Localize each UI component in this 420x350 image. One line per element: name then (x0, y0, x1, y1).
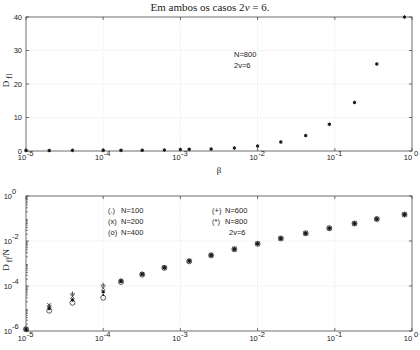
top-ytick-label: 10 (14, 113, 22, 122)
top-xtick-label-exp: -2 (258, 149, 265, 158)
bottom-ytick-label-base: 10 (4, 327, 12, 336)
bottom-ytick-label: 100 (4, 187, 17, 200)
top-xtick-label-base: 10 (249, 153, 257, 162)
bottom-panel: 10-510-410-310-210-110010010-210-410-6Df… (1, 187, 418, 343)
top-annotation: N=800 (234, 50, 256, 59)
bottom-xtick-label-base: 10 (404, 334, 412, 343)
bottom-ytick-label-exp: 0 (12, 187, 16, 196)
legend-symbol: (.) (108, 206, 116, 215)
bottom-ytick-label-base: 10 (4, 282, 12, 291)
top-xaxis-label: β (217, 165, 222, 175)
legend-entry: (o)N=400 (108, 228, 143, 237)
legend-entry: (*)N=800 (212, 217, 247, 226)
top-series-N=800 (24, 15, 406, 152)
bottom-xtick-label-exp: -4 (104, 330, 111, 339)
top-xtick-label-base: 10 (172, 153, 180, 162)
legend-label: 2v=6 (229, 228, 245, 237)
legend-label: N=400 (121, 228, 143, 237)
bottom-ytick-label: 10-2 (4, 232, 19, 245)
bottom-xtick-label: 10-3 (172, 330, 188, 343)
legend-label: N=600 (225, 206, 247, 215)
bottom-ytick-label-exp: -2 (12, 232, 19, 241)
bottom-series-N=800 (24, 213, 406, 331)
top-xtick-label-exp: -4 (104, 149, 111, 158)
figure-container: Em ambos os casos 2v = 6. 10-510-410-310… (0, 0, 420, 350)
top-xtick-label-exp: -5 (27, 149, 34, 158)
legend-entry: 2v=6 (229, 228, 245, 237)
bottom-xtick-label-base: 10 (327, 334, 335, 343)
bottom-ytick-label: 10-4 (4, 277, 19, 290)
bottom-xtick-label-exp: -2 (258, 330, 265, 339)
figure-title-prefix: Em ambos os casos 2 (151, 1, 245, 13)
legend-symbol: (o) (108, 228, 118, 237)
top-ytick-label: 20 (14, 80, 22, 89)
bottom-xtick-label-base: 10 (249, 334, 257, 343)
bottom-series-N=600 (24, 212, 407, 331)
bottom-ytick-label-base: 10 (4, 237, 12, 246)
legend-label: N=200 (121, 217, 143, 226)
bottom-ytick-label: 10-6 (4, 322, 19, 335)
legend-symbol: (*) (212, 217, 220, 226)
bottom-xtick-label-exp: -1 (335, 330, 342, 339)
bottom-xtick-label-exp: 0 (414, 330, 418, 339)
bottom-yaxis-label-base: D (1, 264, 11, 271)
bottom-xtick-label: 10-4 (95, 330, 111, 343)
top-ytick-label: 0 (18, 147, 22, 156)
legend-symbol: (x) (108, 217, 117, 226)
bottom-xtick-label: 10-2 (249, 330, 265, 343)
bottom-xtick-label-base: 10 (18, 334, 26, 343)
bottom-xtick-label-base: 10 (95, 334, 103, 343)
top-annotation: 2v=6 (234, 61, 250, 70)
legend-symbol: (+) (212, 206, 222, 215)
top-xtick-label-exp: -1 (335, 149, 342, 158)
bottom-series-N=400 (24, 212, 408, 332)
bottom-xtick-label-exp: -3 (181, 330, 188, 339)
top-yaxis-label: Dfl (1, 73, 14, 87)
plot-area: 10-510-410-310-210-1100010203040βDflN=80… (0, 0, 420, 350)
legend-entry: (x)N=200 (108, 217, 143, 226)
top-yaxis-label-sub: fl (4, 73, 14, 79)
figure-title: Em ambos os casos 2v = 6. (0, 0, 420, 14)
legend-entry: (+)N=600 (212, 206, 247, 215)
bottom-ytick-label-exp: -6 (12, 322, 19, 331)
top-xtick-label-base: 10 (95, 153, 103, 162)
bottom-xtick-label: 100 (404, 330, 418, 343)
figure-title-suffix: = 6. (250, 1, 270, 13)
bottom-xtick-label: 10-1 (327, 330, 343, 343)
bottom-xtick-label-base: 10 (172, 334, 180, 343)
bottom-ytick-label-base: 10 (4, 192, 12, 201)
top-xtick-label-base: 10 (404, 153, 412, 162)
bottom-series-N=200 (24, 212, 407, 331)
top-panel: 10-510-410-310-210-1100010203040βDflN=80… (1, 13, 418, 175)
legend-label: N=100 (121, 206, 143, 215)
bottom-ytick-label-exp: -4 (12, 277, 19, 286)
bottom-yaxis-label: Dfl/N (1, 248, 14, 270)
legend-entry: (.)N=100 (108, 206, 143, 215)
top-ytick-label: 30 (14, 46, 22, 55)
top-xtick-label-base: 10 (327, 153, 335, 162)
bottom-yaxis-label-suffix: /N (1, 248, 11, 258)
top-yaxis-label-base: D (1, 80, 11, 87)
legend-label: N=800 (225, 217, 247, 226)
top-xtick-label-exp: 0 (414, 149, 418, 158)
bottom-series-N=100 (25, 214, 405, 331)
